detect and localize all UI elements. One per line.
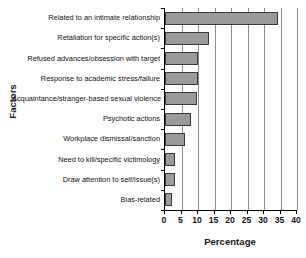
x-axis-tick	[181, 210, 182, 214]
y-axis-tick-label: Psychotic actions	[12, 115, 160, 123]
bar	[165, 173, 175, 186]
y-axis-tick	[161, 48, 165, 49]
bar	[165, 72, 198, 85]
gridline	[264, 8, 265, 210]
bar	[165, 52, 198, 65]
x-axis-tick	[280, 210, 281, 214]
x-axis-tick	[247, 210, 248, 214]
plot-area	[164, 8, 297, 211]
y-axis-tick	[161, 129, 165, 130]
y-axis-tick	[161, 89, 165, 90]
x-axis-tick	[263, 210, 264, 214]
x-axis-tick	[164, 210, 165, 214]
y-axis-tick-label: Related to an intimate relationship	[12, 14, 160, 22]
gridline	[231, 8, 232, 210]
x-axis-tick	[197, 210, 198, 214]
y-axis-tick	[161, 69, 165, 70]
y-axis-tick-label: Workplace dismissal/sanction	[12, 135, 160, 143]
y-axis-tick	[161, 109, 165, 110]
gridline	[215, 8, 216, 210]
y-axis-tick-label: Refused advances/obsession with target	[12, 55, 160, 63]
gridline	[281, 8, 282, 210]
bar	[165, 153, 175, 166]
y-axis-tick-label: Need to kill/specific victimology	[12, 156, 160, 164]
y-axis-tick	[161, 28, 165, 29]
bar	[165, 12, 278, 25]
y-axis-tick-label: Retaliation for specific action(s)	[12, 34, 160, 42]
y-axis-category-labels: Related to an intimate relationship Reta…	[14, 8, 162, 210]
y-axis-tick-label: Bias-related	[12, 196, 160, 204]
gridline	[297, 8, 298, 210]
y-axis-tick	[161, 170, 165, 171]
y-axis-tick-label: Acquaintance/stranger-based sexual viole…	[12, 95, 160, 103]
bar	[165, 193, 172, 206]
x-axis-tick-label: 40	[284, 215, 306, 225]
y-axis-tick-label: Response to academic stress/failure	[12, 75, 160, 83]
x-axis-tick	[214, 210, 215, 214]
gridline	[248, 8, 249, 210]
bar	[165, 32, 209, 45]
bar	[165, 92, 197, 105]
x-axis-tick	[296, 210, 297, 214]
x-axis-tick	[230, 210, 231, 214]
y-axis-tick	[161, 8, 165, 9]
y-axis-tick	[161, 190, 165, 191]
bar	[165, 113, 191, 126]
y-axis-tick	[161, 149, 165, 150]
y-axis-tick-label: Draw attention to self/issue(s)	[12, 176, 160, 184]
bar	[165, 133, 185, 146]
bar-chart-figure: Factors Related to an intimate relations…	[0, 0, 306, 258]
x-axis-title: Percentage	[164, 236, 296, 247]
